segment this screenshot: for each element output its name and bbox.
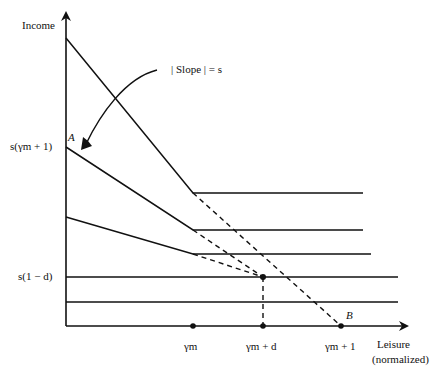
y-tick-label-s-one-minus-d: s(1 − d) — [18, 271, 52, 282]
point-label-a: A — [68, 132, 75, 143]
x-axis-label: Leisure — [377, 339, 410, 350]
slope-annotation-arrowhead — [81, 137, 92, 150]
budget-line-third — [66, 217, 371, 254]
y-tick-label-s-gm-plus-1: s(γm + 1) — [10, 141, 52, 152]
x-tick-label-gm-plus-1: γm + 1 — [325, 341, 356, 352]
point-label-b: B — [346, 310, 353, 321]
x-tick-label-gm-plus-d: γm + d — [246, 341, 277, 352]
x-tick-dot-gm-plus-d — [260, 323, 266, 329]
budget-line-a — [66, 147, 363, 230]
dashed-extension-third — [193, 254, 263, 277]
slope-annotation: | Slope | = s — [171, 64, 222, 75]
x-tick-dot-gm — [190, 323, 196, 329]
x-tick-dot-gm-plus-1 — [338, 323, 344, 329]
dashed-extension-top — [193, 193, 341, 326]
y-axis-label: Income — [22, 20, 55, 31]
x-axis-label-sub: (normalized) — [372, 354, 429, 365]
slope-annotation-arrow — [86, 70, 157, 144]
budget-constraint-diagram — [0, 0, 437, 368]
x-tick-label-gm: γm — [184, 341, 197, 352]
budget-line-top — [66, 38, 363, 193]
intersection-point — [260, 274, 266, 280]
